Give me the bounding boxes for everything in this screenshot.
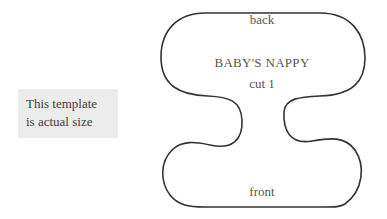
pattern-title: BABY'S NAPPY — [214, 55, 309, 70]
back-label: back — [250, 12, 275, 27]
nappy-outline — [161, 13, 365, 207]
nappy-pattern-diagram: back BABY'S NAPPY cut 1 front — [0, 0, 387, 219]
cut-instruction: cut 1 — [249, 76, 275, 91]
front-label: front — [249, 184, 275, 199]
